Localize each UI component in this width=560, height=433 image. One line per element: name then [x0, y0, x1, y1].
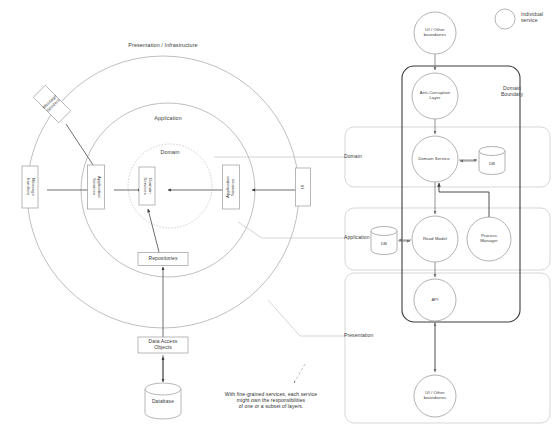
node-label-domain-db: DB — [489, 162, 495, 167]
box-label-ui: UI — [301, 185, 306, 190]
ring-label-presentation-infrastructure: Presentation / Infrastructure — [128, 42, 197, 48]
node-label-application-db: DB — [381, 242, 387, 247]
node-label-anti-corruption-layer: Anti-Corruption Layer — [420, 91, 450, 101]
node-label-api: API — [431, 298, 438, 303]
box-label-application-services-left: Application Services — [91, 176, 101, 198]
caption-leader — [294, 364, 305, 383]
lane-label-presentation: Presentation — [344, 333, 373, 339]
node-label-read-model: Read Model — [423, 237, 447, 242]
box-label-message-handlers: Message handlers — [25, 178, 35, 196]
box-label-data-access-objects: Data Access Objects — [149, 339, 178, 351]
caption-text: With fine-grained services, each service… — [225, 392, 317, 409]
legend-individual-service-circle — [495, 9, 515, 29]
node-label-process-manager: Process Manager — [480, 234, 498, 244]
arrow-repositories-to-domainservices — [148, 209, 159, 252]
box-label-domain-services: Domain Services — [142, 177, 152, 194]
node-label-ui-other-bottom: UI / Other boundaries — [424, 391, 446, 401]
ring-label-domain: Domain — [160, 149, 179, 155]
right-nodes — [412, 9, 515, 417]
ring-label-application: Application — [154, 115, 181, 121]
lane-label-domain: Domain — [344, 154, 362, 160]
lane-label-application: Application — [344, 235, 370, 241]
legend-label-individual-service: Individual service — [521, 12, 543, 24]
node-label-ui-other-top: UI / Other boundaries — [424, 28, 446, 38]
box-label-database: Database — [152, 399, 174, 405]
leader-presentation — [268, 300, 345, 336]
architecture-diagram — [0, 0, 560, 433]
domain-boundary-label: Domain Boundary — [501, 86, 523, 98]
node-label-domain-service: Domain Service — [418, 157, 450, 162]
box-label-application-services-right: Application Services — [226, 176, 236, 198]
arrow-processmanager-to-domainservice — [439, 183, 489, 217]
box-label-repositories: Repositories — [149, 256, 178, 262]
onion-boxes — [22, 85, 311, 353]
